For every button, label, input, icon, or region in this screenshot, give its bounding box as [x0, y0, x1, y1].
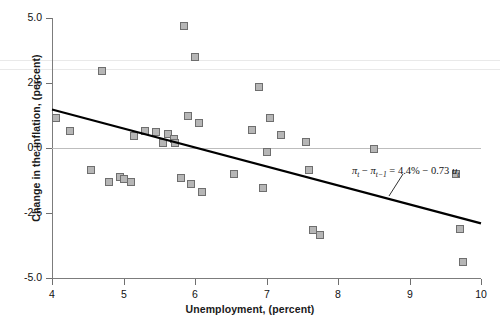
data-point-24: [255, 83, 263, 91]
regression-equation-annotation: πt − πt−1 = 4.4% − 0.73 ut: [352, 165, 459, 179]
data-point-7: [127, 178, 135, 186]
scan-artifact-line-1: [0, 60, 500, 61]
eq-slope: 0.73: [431, 165, 449, 176]
eq-pi-t: πt: [352, 165, 359, 176]
y-tick-2: [46, 148, 52, 149]
eq-minus-1: −: [362, 165, 368, 176]
eq-pi-t-minus-1: πt−1: [371, 165, 387, 176]
scan-artifact-line-2: [0, 69, 500, 70]
y-tick-1: [46, 83, 52, 84]
data-point-10: [152, 128, 160, 136]
x-tick-label-4: 8: [326, 288, 350, 300]
data-point-8: [130, 132, 138, 140]
data-point-9: [141, 127, 149, 135]
x-tick-label-2: 6: [183, 288, 207, 300]
data-point-21: [198, 188, 206, 196]
data-point-14: [171, 139, 179, 147]
data-point-25: [259, 184, 267, 192]
eq-minus-2: −: [422, 165, 428, 176]
y-tick-0: [46, 18, 52, 19]
y-axis-label: Change in the inflation, (percent): [30, 18, 42, 258]
data-point-18: [187, 180, 195, 188]
x-tick-label-0: 4: [40, 288, 64, 300]
data-point-16: [180, 22, 188, 30]
x-tick-3: [267, 279, 268, 285]
y-tick-label-0: 5.0: [8, 11, 42, 23]
data-point-35: [456, 225, 464, 233]
x-tick-label-5: 9: [398, 288, 422, 300]
data-point-29: [302, 138, 310, 146]
data-point-26: [263, 148, 271, 156]
data-point-11: [159, 139, 167, 147]
eq-equals: =: [389, 165, 395, 176]
data-point-3: [98, 67, 106, 75]
y-tick-3: [46, 213, 52, 214]
data-point-2: [87, 166, 95, 174]
y-tick-label-1: 2.5: [8, 76, 42, 88]
data-point-32: [316, 231, 324, 239]
y-tick-label-2: 0.0: [8, 141, 42, 153]
data-point-22: [230, 170, 238, 178]
x-tick-label-1: 5: [112, 288, 136, 300]
data-point-1: [66, 127, 74, 135]
data-point-27: [266, 114, 274, 122]
data-point-33: [370, 145, 378, 153]
x-axis-label: Unemployment, (percent): [0, 303, 500, 315]
x-tick-0: [52, 279, 53, 285]
x-tick-1: [124, 279, 125, 285]
y-tick-label-4: -5.0: [8, 271, 42, 283]
data-point-19: [191, 53, 199, 61]
data-point-30: [305, 166, 313, 174]
figure-scatter-plot: Change in the inflation, (percent) Unemp…: [0, 0, 500, 328]
data-point-4: [105, 178, 113, 186]
y-tick-label-3: -2.5: [8, 206, 42, 218]
x-tick-5: [410, 279, 411, 285]
data-point-23: [248, 126, 256, 134]
x-tick-4: [338, 279, 339, 285]
x-tick-label-3: 7: [255, 288, 279, 300]
x-tick-label-6: 10: [469, 288, 493, 300]
data-point-15: [177, 174, 185, 182]
eq-u-t: ut: [452, 165, 459, 176]
data-point-0: [52, 114, 60, 122]
data-point-36: [459, 258, 467, 266]
eq-intercept: 4.4%: [398, 165, 420, 176]
x-tick-2: [195, 279, 196, 285]
x-tick-6: [481, 279, 482, 285]
data-point-20: [195, 119, 203, 127]
data-point-28: [277, 131, 285, 139]
data-point-17: [184, 112, 192, 120]
